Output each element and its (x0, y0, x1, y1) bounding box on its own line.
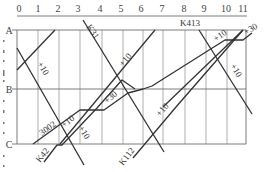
offset-right-top-end: +30 (242, 21, 260, 37)
tick-2: 2 (56, 3, 61, 14)
tick-3: 3 (76, 3, 81, 14)
label-k31: K31 (84, 22, 101, 40)
train-line-left-descending (17, 48, 84, 165)
train-line-center-rising (60, 30, 155, 144)
left-margin-marks (3, 40, 5, 167)
tick-5: 5 (119, 3, 124, 14)
tick-0: 0 (17, 3, 22, 14)
offset-center-upper: +10 (117, 51, 134, 69)
station-b-label: B (6, 84, 13, 95)
label-k413: K413 (180, 18, 200, 28)
tick-4: 4 (98, 3, 103, 14)
tick-11: 11 (238, 3, 248, 14)
train-graph-diagram: 0 1 2 3 4 5 6 7 8 9 10 11 A B C (0, 0, 266, 172)
tick-7: 7 (160, 3, 165, 14)
station-a-label: A (5, 25, 13, 36)
tick-9: 9 (202, 3, 207, 14)
train-line-k42 (44, 80, 135, 162)
tick-6: 6 (139, 3, 144, 14)
tick-10: 10 (221, 3, 231, 14)
offset-left-lower: +10 (76, 124, 92, 142)
station-c-label: C (6, 139, 13, 150)
tick-8: 8 (182, 3, 187, 14)
label-k42: K42 (34, 146, 51, 164)
train-line-k112 (133, 30, 243, 158)
offset-right-mid: +10 (228, 62, 244, 80)
label-3002: 3002 (37, 119, 57, 138)
top-axis-labels: 0 1 2 3 4 5 6 7 8 9 10 11 (17, 3, 248, 14)
tick-1: 1 (36, 3, 41, 14)
